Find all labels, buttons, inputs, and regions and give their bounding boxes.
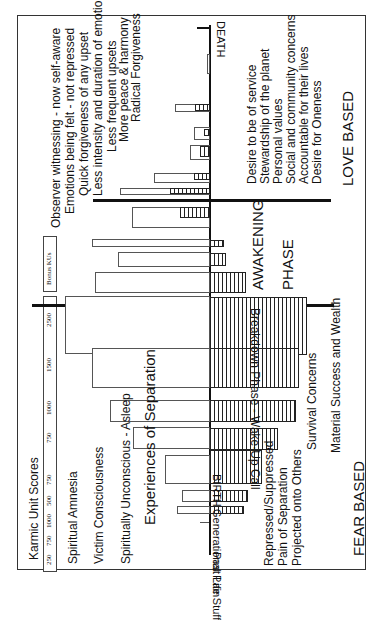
bar-hatched (210, 272, 246, 293)
love-emotion: Observer witnessing - now self-aware (50, 28, 62, 228)
bar-open (92, 239, 210, 247)
past-life-label: Past Life Stuff (211, 552, 222, 620)
fear-based-label: FEAR BASED (351, 461, 366, 556)
phase-label: PHASE (280, 239, 295, 290)
love-value: Desire for Oneness (311, 81, 323, 184)
love-emotion: Quick forgiveness of any upset (78, 32, 90, 196)
bar-hatched (195, 104, 210, 111)
bar-open (95, 272, 210, 293)
scale-tick: 500 (46, 496, 53, 507)
scale-tick: 1000 (46, 401, 53, 415)
bar-hatched (200, 146, 210, 157)
scale-tick: 750 (46, 433, 53, 444)
bar-open (118, 252, 210, 267)
bar-hatched (210, 253, 226, 266)
bar-hatched (210, 240, 224, 247)
bar-hatched (204, 129, 210, 136)
love-emotion: Less intensity and duration of emotion (92, 0, 104, 196)
experiences-separation-label: Experiences of Separation (142, 349, 157, 525)
bar-open (177, 506, 210, 514)
spiritually-unconscious: Spiritually Unconscious - Asleep (120, 393, 132, 564)
scale-tick: 750 (46, 475, 53, 486)
death-tick (197, 27, 209, 29)
bar-hatched (194, 173, 210, 180)
love-emotion: Emotions being felt - not repressed (64, 28, 76, 214)
love-value: Personal values (272, 99, 284, 184)
scale-tick: 1500 (46, 358, 53, 372)
love-value: Stewardship of the planet (259, 49, 271, 184)
bar-open (182, 490, 210, 502)
survival-concerns: Survival Concerns (306, 353, 318, 450)
scale-tick: 1000 (46, 514, 53, 528)
generational-pain-tick (200, 522, 209, 523)
scale-tick: 2500 (46, 313, 53, 327)
scale-tick: 750 (46, 536, 53, 547)
bar-open (165, 455, 210, 484)
fear-emotion: Pain of Separation (277, 467, 289, 566)
love-value: Accountable for their lives (298, 47, 310, 184)
awakening-label: AWAKENING (250, 199, 265, 290)
breakdown-phase-label: Breakdown Phase - Wake-Up Call (249, 308, 261, 490)
bar-open (65, 296, 210, 354)
fear-emotion: Projected onto Others (291, 449, 303, 566)
victim-consciousness: Victim Consciousness (93, 447, 105, 564)
material-success: Material Success and Wealth (330, 298, 342, 453)
bar-hatched (170, 188, 210, 194)
bonus-ku-label: Bonus KUs (46, 253, 53, 285)
death-label: DEATH (215, 21, 226, 57)
spiritual-amnesia: Spiritual Amnesia (67, 471, 79, 564)
love-emotion: Radical Forgiveness (130, 13, 142, 122)
bar-hatched (180, 207, 210, 218)
love-value: Desire to be of service (246, 65, 258, 184)
scale-tick: 250 (46, 555, 53, 566)
awakening-divider-line (93, 199, 331, 202)
bar-open (207, 54, 210, 74)
birth-label: BIRTH (211, 474, 222, 507)
fear-emotion: Repressed/Suppressed (263, 441, 275, 566)
karmic-scale-title: Karmic Unit Scores (28, 457, 40, 560)
love-value: Social and community concerns (285, 15, 297, 184)
love-based-label: LOVE BASED (340, 91, 355, 186)
